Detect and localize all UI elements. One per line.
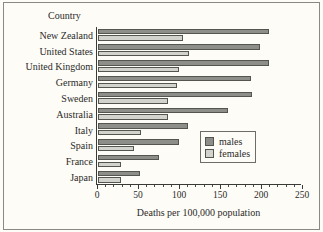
bar-group: Sweden xyxy=(97,90,301,106)
bar-males xyxy=(98,171,140,176)
x-axis-minor-tick xyxy=(113,185,114,187)
bar-group: United Kingdom xyxy=(97,59,301,75)
x-axis-minor-tick xyxy=(277,185,278,187)
x-axis-tick-label: 200 xyxy=(254,190,268,200)
x-axis-minor-tick xyxy=(105,185,106,187)
bar-males xyxy=(98,60,269,65)
bar-females xyxy=(98,146,134,151)
x-axis-tick-label: 100 xyxy=(172,190,186,200)
x-axis-minor-tick xyxy=(187,185,188,187)
x-axis-tick-label: 50 xyxy=(133,190,143,200)
legend: males females xyxy=(200,131,256,163)
legend-label-males: males xyxy=(219,136,242,147)
y-axis-tick-label: United States xyxy=(39,45,93,56)
bar-males xyxy=(98,108,228,113)
y-axis-tick-label: Italy xyxy=(75,124,93,135)
x-axis-minor-tick xyxy=(122,185,123,187)
legend-label-females: females xyxy=(219,148,250,159)
x-axis-minor-tick xyxy=(269,185,270,187)
bar-females xyxy=(98,51,189,56)
bar-group: Japan xyxy=(97,169,301,185)
y-axis-tick-label: New Zealand xyxy=(39,29,93,40)
x-axis-tick-label: 0 xyxy=(95,190,100,200)
bar-group: Germany xyxy=(97,74,301,90)
bar-females xyxy=(98,98,168,103)
x-axis-minor-tick xyxy=(204,185,205,187)
legend-swatch-females xyxy=(205,149,214,158)
x-axis-minor-tick xyxy=(146,185,147,187)
x-axis-minor-tick xyxy=(286,185,287,187)
bar-males xyxy=(98,155,159,160)
x-axis-minor-tick xyxy=(236,185,237,187)
y-axis-tick-label: Spain xyxy=(70,140,93,151)
y-axis-title: Country xyxy=(48,10,134,21)
y-axis-tick-label: France xyxy=(66,156,93,167)
bar-males xyxy=(98,44,260,49)
bar-group: Italy xyxy=(97,122,301,138)
bar-group: Spain xyxy=(97,138,301,154)
bar-group: United States xyxy=(97,43,301,59)
bar-group: France xyxy=(97,153,301,169)
y-axis-tick-label: Sweden xyxy=(61,93,93,104)
x-axis-minor-tick xyxy=(253,185,254,187)
x-axis-minor-tick xyxy=(154,185,155,187)
x-axis-major-tick xyxy=(138,185,139,189)
y-axis-tick-label: United Kingdom xyxy=(26,61,94,72)
x-axis-major-tick xyxy=(97,185,98,189)
legend-item-females: females xyxy=(205,147,250,159)
bar-group: New Zealand xyxy=(97,27,301,43)
x-axis-major-tick xyxy=(261,185,262,189)
x-axis-major-tick xyxy=(302,185,303,189)
bar-males xyxy=(98,76,251,81)
bar-females xyxy=(98,83,177,88)
bar-females xyxy=(98,177,121,182)
bar-females xyxy=(98,162,121,167)
bar-females xyxy=(98,114,168,119)
chart-figure: Country New ZealandUnited StatesUnited K… xyxy=(0,0,323,232)
legend-item-males: males xyxy=(205,135,250,147)
legend-swatch-males xyxy=(205,137,214,146)
x-axis-minor-tick xyxy=(195,185,196,187)
bar-males xyxy=(98,92,252,97)
bar-females xyxy=(98,35,183,40)
bar-females xyxy=(98,67,179,72)
x-axis-minor-tick xyxy=(294,185,295,187)
x-axis-minor-tick xyxy=(130,185,131,187)
x-axis-major-tick xyxy=(179,185,180,189)
x-axis-minor-tick xyxy=(212,185,213,187)
y-axis-tick-label: Japan xyxy=(70,172,93,183)
y-axis-tick-label: Australia xyxy=(56,108,93,119)
x-axis-tick-label: 250 xyxy=(295,190,309,200)
bar-group: Australia xyxy=(97,106,301,122)
x-axis-minor-tick xyxy=(171,185,172,187)
x-axis-minor-tick xyxy=(245,185,246,187)
x-axis-major-tick xyxy=(220,185,221,189)
bar-males xyxy=(98,29,269,34)
plot-area: New ZealandUnited StatesUnited KingdomGe… xyxy=(96,27,301,185)
y-axis-tick-label: Germany xyxy=(56,77,93,88)
bar-females xyxy=(98,130,141,135)
x-axis-minor-tick xyxy=(228,185,229,187)
x-axis-tick-label: 150 xyxy=(213,190,227,200)
x-axis-title: Deaths per 100,000 population xyxy=(96,207,301,218)
x-axis-minor-tick xyxy=(163,185,164,187)
bar-males xyxy=(98,123,188,128)
bar-males xyxy=(98,139,179,144)
